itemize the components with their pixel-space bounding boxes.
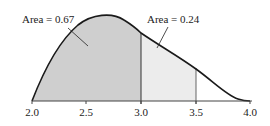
x-tick-label: 3.0 <box>134 106 148 118</box>
x-tick-label: 3.5 <box>189 106 203 118</box>
probability-density-chart: 2.0 2.5 3.0 3.5 4.0 Area = 0.67 Area = 0… <box>0 0 270 126</box>
x-tick-label: 2.0 <box>25 106 39 118</box>
shaded-region-2-to-3 <box>32 15 141 101</box>
shaded-region-3-to-3.5 <box>141 33 196 101</box>
annotation-left-area: Area = 0.67 <box>22 13 75 25</box>
x-tick-label: 4.0 <box>243 106 257 118</box>
annotation-right-area: Area = 0.24 <box>147 13 200 25</box>
annotation-right-leader <box>157 27 168 48</box>
x-tick-label: 2.5 <box>79 106 93 118</box>
